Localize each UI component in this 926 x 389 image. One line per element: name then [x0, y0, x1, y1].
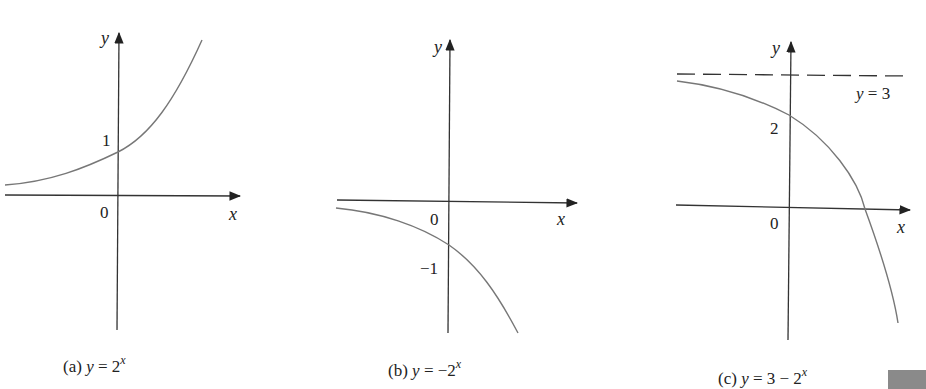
x-axis-label: x — [896, 217, 905, 237]
origin-label: 0 — [770, 214, 779, 233]
y-axis-label: y — [770, 38, 780, 58]
asymptote-label: y = 3 — [854, 84, 890, 103]
y-axis — [788, 42, 791, 340]
y-axis-label: y — [432, 37, 442, 57]
y-tick-label: −1 — [420, 259, 438, 278]
y-axis — [448, 40, 450, 333]
figure: y x 0 1 (a) y = 2x y x 0 −1 (b) y = −2x — [0, 0, 926, 389]
x-axis-label: x — [556, 209, 565, 229]
y-tick-label: 2 — [770, 119, 779, 138]
asymptote-line — [677, 74, 906, 76]
panel-c: y x 0 2 y = 3 (c) y = 3 − 2x — [676, 38, 910, 388]
y-axis-label: y — [99, 28, 109, 48]
caption-b: (b) y = −2x — [388, 357, 462, 380]
x-axis-label: x — [228, 204, 237, 224]
origin-label: 0 — [100, 203, 109, 222]
x-axis — [337, 200, 577, 203]
curve-2-pow-x — [5, 40, 202, 185]
curve-3-minus-2-pow-x — [677, 81, 898, 323]
y-tick-label: 1 — [102, 131, 111, 150]
corner-block — [888, 370, 926, 389]
origin-label: 0 — [430, 210, 439, 229]
x-axis — [676, 205, 910, 210]
caption-c: (c) y = 3 − 2x — [718, 365, 808, 388]
panel-b: y x 0 −1 (b) y = −2x — [336, 37, 577, 380]
panel-a: y x 0 1 (a) y = 2x — [5, 28, 240, 376]
caption-a: (a) y = 2x — [63, 353, 126, 376]
x-axis — [5, 195, 240, 196]
y-axis — [117, 33, 119, 330]
